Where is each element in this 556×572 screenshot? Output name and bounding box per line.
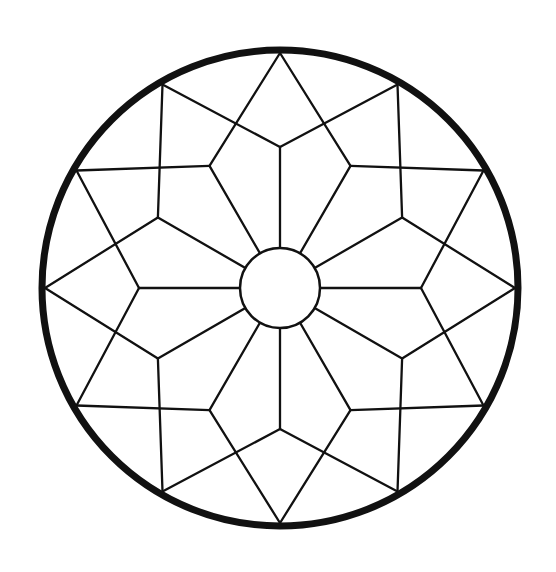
- center-circle: [240, 248, 320, 328]
- star-edge: [351, 406, 484, 411]
- star-edge: [280, 84, 398, 147]
- star-edge: [45, 288, 158, 359]
- star-edge: [76, 288, 139, 406]
- star-edge: [398, 359, 403, 492]
- star-edge: [351, 166, 484, 171]
- star-edge: [158, 359, 163, 492]
- star-edge: [210, 410, 281, 523]
- star-edge: [76, 406, 209, 411]
- star-edge: [280, 53, 351, 166]
- star-edge: [158, 84, 163, 217]
- rosette-diagram: [0, 0, 556, 572]
- star-edge: [76, 166, 209, 171]
- star-edge: [421, 171, 484, 289]
- star-edge: [76, 171, 139, 289]
- star-edge: [163, 429, 281, 492]
- star-edge: [402, 288, 515, 359]
- star-edge: [45, 218, 158, 289]
- star-edge: [398, 84, 403, 217]
- star-edge: [280, 429, 398, 492]
- star-edge: [163, 84, 281, 147]
- star-edge: [280, 410, 351, 523]
- star-edge: [210, 53, 281, 166]
- star-edge: [421, 288, 484, 406]
- star-edge: [402, 218, 515, 289]
